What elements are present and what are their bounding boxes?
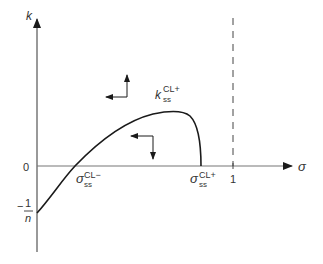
phase-diagram: k σ 0 − 1 n 1 k CL+ ss σ CL− ss σ CL+ ss bbox=[0, 0, 323, 264]
root-right-sup: CL+ bbox=[199, 170, 216, 180]
y-axis-label: k bbox=[26, 9, 33, 23]
x-axis-label: σ bbox=[298, 159, 307, 174]
curve-label-sup: CL+ bbox=[163, 84, 180, 94]
steady-state-curve bbox=[37, 112, 201, 213]
root-left-sup: CL− bbox=[84, 170, 101, 180]
curve-label-sub: ss bbox=[163, 95, 171, 104]
y-tick-minus: − bbox=[17, 200, 23, 212]
vector-arrows-above bbox=[106, 75, 127, 97]
x-tick-one-label: 1 bbox=[230, 173, 236, 185]
y-tick-numerator: 1 bbox=[25, 197, 31, 209]
root-left-sub: ss bbox=[84, 180, 92, 189]
vector-arrows-below bbox=[131, 136, 153, 159]
root-right-base: σ bbox=[190, 171, 199, 186]
curve-label-base: k bbox=[155, 88, 162, 102]
y-tick-denominator: n bbox=[25, 212, 31, 224]
root-right-sub: ss bbox=[199, 180, 207, 189]
origin-label: 0 bbox=[23, 161, 29, 173]
